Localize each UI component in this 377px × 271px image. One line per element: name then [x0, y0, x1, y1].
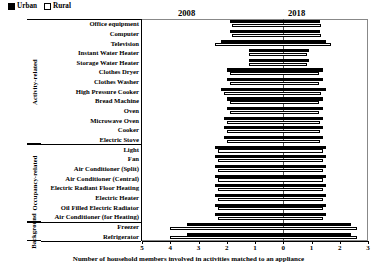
bar-urban: [215, 204, 325, 207]
x-axis-tick-label: 3: [197, 244, 201, 252]
bar-urban: [227, 107, 323, 110]
group-separator: [41, 144, 141, 145]
group-bracket-label: Activity-related: [31, 59, 38, 105]
x-axis-tick-label: 5: [140, 244, 144, 252]
bar-urban: [230, 20, 320, 23]
bar-urban: [227, 78, 323, 81]
bar-rural: [218, 178, 323, 181]
category-label: Clothes Dryer: [99, 68, 139, 75]
bar-rural: [230, 82, 319, 85]
category-label: Television: [111, 40, 139, 47]
group-bracket: Occupancy-related: [27, 144, 41, 221]
bar-rural: [232, 34, 321, 37]
bar-rural: [230, 72, 319, 75]
label-column-rule: [41, 19, 141, 20]
category-label: Oven: [124, 107, 139, 114]
bar-rural: [227, 140, 320, 143]
bar-rural: [218, 217, 323, 220]
category-label: Refrigerator: [103, 233, 139, 240]
category-label: Microwave Oven: [90, 117, 139, 124]
category-label: Electric Heater: [95, 194, 139, 201]
category-label: Air Conditioner (Split): [74, 165, 139, 172]
group-bracket: Activity-related: [27, 19, 41, 144]
bar-urban: [224, 117, 323, 120]
bar-rural: [218, 188, 323, 191]
category-label: Electric Stove: [99, 136, 139, 143]
bar-rural: [224, 92, 321, 95]
plot-area: [142, 19, 368, 241]
x-axis: 543210123: [142, 241, 368, 253]
bar-urban: [249, 59, 308, 62]
bar-urban: [215, 194, 325, 197]
bar-rural: [170, 227, 356, 230]
category-label-column: Office equipmentComputerTelevisionInstan…: [41, 19, 142, 241]
bar-urban: [215, 213, 325, 216]
bar-rural: [249, 63, 307, 66]
bar-rural: [227, 121, 320, 124]
bar-urban: [224, 126, 323, 129]
bar-urban: [221, 40, 326, 43]
bar-urban: [215, 175, 325, 178]
legend-item-urban: Urban: [8, 2, 37, 10]
x-axis-tick-label: 0: [282, 244, 286, 252]
chart-legend: Urban Rural: [8, 2, 71, 10]
bar-rural: [218, 198, 323, 201]
label-column-rule: [41, 241, 141, 242]
category-label: Oil Filled Electric Radiator: [61, 204, 139, 211]
legend-swatch-urban-icon: [8, 3, 15, 10]
bar-urban: [224, 136, 323, 139]
group-bracket-label: Background: [31, 213, 37, 249]
bar-urban: [215, 165, 325, 168]
x-axis-tick-label: 2: [225, 244, 229, 252]
x-axis-tick-label: 1: [310, 244, 314, 252]
group-bracket-column: Activity-relatedOccupancy-relatedBackgro…: [27, 19, 41, 241]
bar-rural: [218, 207, 323, 210]
category-label: Office equipment: [89, 20, 139, 27]
bar-urban: [221, 88, 326, 91]
x-axis-title: Number of household members involved in …: [0, 255, 377, 263]
bar-urban: [215, 155, 325, 158]
bar-rural: [218, 159, 323, 162]
bar-rural: [230, 111, 319, 114]
bar-rural: [249, 53, 307, 56]
legend-label-urban: Urban: [17, 2, 37, 10]
category-label: Air Conditioner (Central): [65, 175, 139, 182]
bar-rural: [218, 169, 323, 172]
bar-urban: [230, 30, 320, 33]
category-label: Light: [123, 146, 139, 153]
group-separator: [41, 222, 141, 223]
bar-rural: [218, 149, 323, 152]
bar-urban: [249, 49, 308, 52]
bar-rural: [170, 236, 356, 239]
x-axis-tick-label: 3: [366, 244, 370, 252]
bar-urban: [227, 68, 323, 71]
category-label: Freezer: [117, 223, 139, 230]
x-axis-tick-label: 4: [169, 244, 173, 252]
bar-urban: [187, 223, 351, 226]
category-label: Air Conditioner (for Heating): [54, 213, 139, 220]
group-bracket: Background: [27, 222, 41, 241]
bar-urban: [215, 146, 325, 149]
bar-urban: [227, 97, 323, 100]
group-bracket-label: Occupancy-related: [31, 156, 38, 211]
category-label: Fan: [128, 155, 139, 162]
category-label: Computer: [110, 30, 139, 37]
year-label-2008: 2008: [178, 8, 195, 18]
category-label: Instant Water Heater: [78, 49, 139, 56]
legend-label-rural: Rural: [53, 2, 71, 10]
bar-rural: [230, 101, 319, 104]
chart-container: Urban Rural 2008 2018 Activity-relatedOc…: [0, 0, 377, 271]
category-label: Electric Radiant Floor Heating: [51, 184, 139, 191]
legend-item-rural: Rural: [44, 2, 71, 10]
bar-rural: [215, 43, 331, 46]
legend-swatch-rural-icon: [44, 3, 51, 10]
category-label: Bread Machine: [95, 97, 139, 104]
bar-rural: [232, 24, 321, 27]
x-axis-tick-label: 1: [253, 244, 257, 252]
category-label: High Pressure Cooker: [76, 88, 139, 95]
bar-urban: [187, 233, 351, 236]
bar-rural: [227, 130, 320, 133]
category-label: Clothes Washer: [94, 78, 139, 85]
category-label: Cooker: [118, 126, 139, 133]
category-label: Storage Water Heater: [76, 59, 139, 66]
